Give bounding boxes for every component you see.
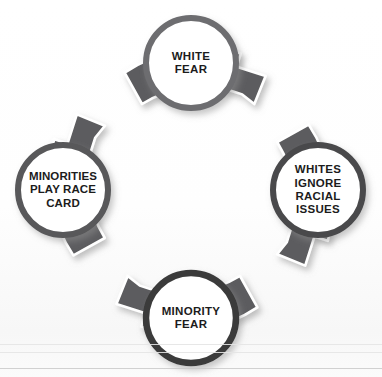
node-circle-whites-ignore-racial-issues bbox=[273, 145, 363, 235]
scan-artifact-line bbox=[0, 344, 382, 345]
node-circle-minority-fear bbox=[146, 273, 236, 363]
page-divider-rule bbox=[0, 368, 382, 369]
cycle-diagram bbox=[0, 0, 382, 377]
scan-artifact-line bbox=[0, 352, 382, 353]
diagram-canvas: WHITE FEAR WHITES IGNORE RACIAL ISSUES M… bbox=[0, 0, 382, 377]
node-circle-minorities-play-race-card bbox=[18, 145, 108, 235]
node-circle-white-fear bbox=[146, 18, 236, 108]
